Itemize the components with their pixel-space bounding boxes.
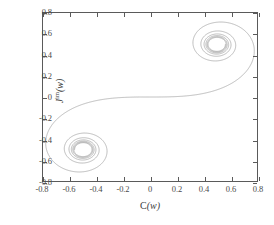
y-tick-mark [253, 13, 257, 14]
x-tick-label: 0.6 [226, 184, 236, 194]
x-tick-mark [124, 13, 125, 17]
x-tick-mark [70, 177, 71, 181]
x-tick-label: 0.4 [199, 184, 209, 194]
x-tick-label: 0.8 [253, 184, 263, 194]
x-tick-label: 0.2 [172, 184, 182, 194]
y-axis-label: Jim(w) [51, 0, 63, 188]
plot-frame [42, 12, 258, 182]
y-tick-mark [253, 56, 257, 57]
x-tick-mark [178, 177, 179, 181]
x-tick-mark [259, 177, 260, 181]
x-axis-label: C(w) [42, 200, 258, 211]
y-tick-mark [43, 98, 47, 99]
x-tick-mark [124, 177, 125, 181]
x-tick-label: -0.6 [62, 184, 75, 194]
y-tick-mark [253, 119, 257, 120]
x-tick-mark [151, 13, 152, 17]
x-tick-label: 0 [148, 184, 152, 194]
y-tick-mark [253, 98, 257, 99]
x-tick-mark [232, 177, 233, 181]
x-tick-label: -0.4 [89, 184, 102, 194]
y-tick-mark [253, 162, 257, 163]
x-tick-mark [151, 177, 152, 181]
x-tick-mark [259, 13, 260, 17]
y-tick-mark [253, 34, 257, 35]
y-tick-mark [253, 77, 257, 78]
x-tick-mark [232, 13, 233, 17]
y-tick-mark [253, 141, 257, 142]
x-tick-mark [205, 13, 206, 17]
x-tick-label: -0.2 [116, 184, 129, 194]
x-tick-mark [97, 177, 98, 181]
chart-figure: -0.8-0.6-0.4-0.200.20.40.60.80.80.60.40.… [0, 0, 274, 225]
x-tick-mark [97, 13, 98, 17]
spiral-path [46, 22, 255, 172]
x-tick-mark [70, 13, 71, 17]
x-tick-mark [205, 177, 206, 181]
x-tick-mark [178, 13, 179, 17]
cornu-spiral-curve [43, 13, 257, 181]
